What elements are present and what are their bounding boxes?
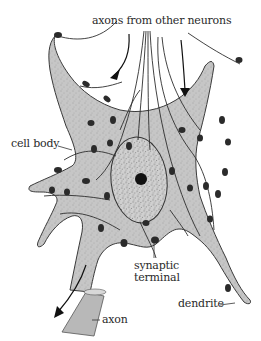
- label-synaptic-line1: synaptic: [134, 260, 178, 272]
- neuron-diagram: axons from other neurons cell body synap…: [0, 0, 261, 341]
- label-axon: axon: [102, 314, 128, 326]
- incoming-axon-arrow-right: [181, 40, 185, 90]
- incoming-axon-arrow-left: [114, 34, 129, 76]
- label-dendrite: dendrite: [178, 298, 224, 310]
- neuron-illustration: [0, 0, 261, 341]
- label-axons-from-other-neurons: axons from other neurons: [92, 15, 231, 27]
- label-synaptic-line2: terminal: [134, 272, 178, 284]
- label-cell-body: cell body: [11, 138, 59, 150]
- label-synaptic-terminal: synaptic terminal: [134, 260, 178, 283]
- nucleolus: [135, 173, 147, 185]
